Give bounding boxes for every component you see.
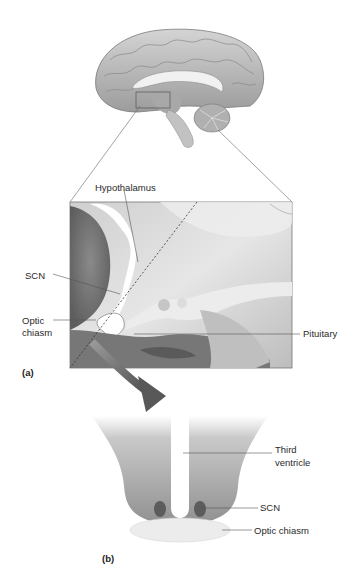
label-optic-chiasm-b: Optic chiasm xyxy=(254,525,309,536)
panel-a-label: (a) xyxy=(22,367,34,378)
label-third-ventricle-line2: ventricle xyxy=(275,457,310,468)
panel-b-label: (b) xyxy=(102,553,114,564)
label-third-ventricle-line1: Third xyxy=(275,444,297,455)
zoom-connector-right xyxy=(218,130,292,202)
label-hypothalamus: Hypothalamus xyxy=(95,182,156,193)
label-pituitary: Pituitary xyxy=(303,328,337,339)
panel-b-coronal-section xyxy=(92,416,268,542)
brain-sagittal-illustration xyxy=(96,29,264,147)
label-optic-chiasm-a-line2: chiasm xyxy=(22,327,52,338)
diagram-canvas xyxy=(0,0,362,577)
panel-a-inset xyxy=(70,202,292,368)
label-optic-chiasm-a-line1: Optic xyxy=(22,315,44,326)
label-scn-b: SCN xyxy=(260,502,280,513)
label-scn-a: SCN xyxy=(25,270,45,281)
